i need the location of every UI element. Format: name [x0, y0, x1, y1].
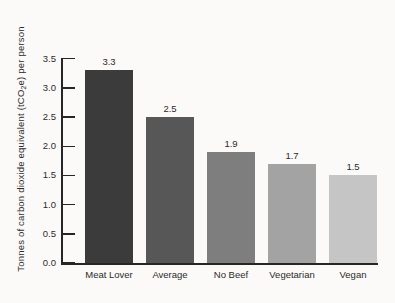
bar-no-beef — [207, 152, 255, 263]
bar-vegetarian — [268, 164, 316, 263]
y-tick-mark-1.5 — [62, 175, 75, 176]
y-tick-label-2.0: 2.0 — [28, 141, 56, 151]
y-tick-mark-1.0 — [62, 204, 75, 205]
ylabel-subscript: 2 — [20, 85, 27, 89]
y-tick-mark-0.0 — [62, 262, 75, 263]
y-tick-mark-3.0 — [62, 87, 75, 88]
bar-value-meat-lover: 3.3 — [79, 56, 139, 67]
y-tick-mark-3.5 — [62, 58, 75, 59]
bar-average — [146, 117, 194, 263]
y-tick-mark-2.5 — [62, 116, 75, 117]
x-axis-line — [61, 263, 378, 265]
bar-value-no-beef: 1.9 — [201, 138, 261, 149]
bar-value-vegan: 1.5 — [323, 161, 383, 172]
bar-vegan — [329, 175, 377, 263]
y-tick-label-2.5: 2.5 — [28, 112, 56, 122]
category-label-vegan: Vegan — [315, 269, 391, 280]
y-tick-mark-2.0 — [62, 146, 75, 147]
bar-value-average: 2.5 — [140, 103, 200, 114]
y-tick-label-1.5: 1.5 — [28, 170, 56, 180]
y-tick-label-3.5: 3.5 — [28, 54, 56, 64]
y-tick-label-3.0: 3.0 — [28, 83, 56, 93]
y-tick-label-0.0: 0.0 — [28, 258, 56, 268]
y-tick-label-0.5: 0.5 — [28, 229, 56, 239]
y-tick-label-1.0: 1.0 — [28, 200, 56, 210]
bar-chart-figure: Tonnes of carbon dioxide equivalent (tCO… — [0, 0, 395, 303]
y-tick-mark-0.5 — [62, 233, 75, 234]
bar-meat-lover — [85, 70, 133, 263]
bar-value-vegetarian: 1.7 — [262, 150, 322, 161]
